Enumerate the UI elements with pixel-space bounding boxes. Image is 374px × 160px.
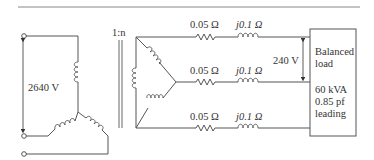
transformer-ratio-label: 1:n — [112, 27, 126, 38]
secondary-coil-left — [132, 68, 136, 88]
secondary-coil-top — [147, 47, 161, 64]
line-3-reactance-label: j0.1 Ω — [234, 111, 263, 122]
line-1 — [136, 33, 310, 40]
line-2-resistance-label: 0.05 Ω — [190, 65, 219, 76]
line-3-resistance-label: 0.05 Ω — [190, 111, 219, 122]
load-power-factor: 0.85 pf — [315, 96, 345, 107]
load-pf-type: leading — [315, 108, 347, 119]
line-3 — [136, 124, 310, 131]
resistor-2 — [196, 79, 215, 85]
line-2-reactance-label: j0.1 Ω — [234, 65, 263, 76]
inductor-2 — [238, 78, 258, 82]
terminal-b — [22, 134, 27, 139]
resistor-1 — [196, 34, 215, 40]
source-coil-top — [74, 62, 78, 82]
source-coil-right — [86, 116, 103, 130]
inductor-3 — [238, 124, 258, 128]
line-2 — [176, 78, 310, 85]
load-title-line1: Balanced — [315, 46, 355, 57]
source-wye — [22, 34, 108, 157]
inductor-1 — [238, 33, 258, 37]
load-title-line2: load — [315, 58, 334, 69]
line-1-reactance-label: j0.1 Ω — [234, 19, 263, 30]
line-1-resistance-label: 0.05 Ω — [190, 19, 219, 30]
circuit-diagram: 2640 V 1:n — [0, 0, 374, 160]
secondary-wye — [132, 37, 176, 128]
load-voltage-label: 240 V — [273, 55, 299, 66]
load-rating: 60 kVA — [315, 84, 348, 95]
terminal-c — [22, 152, 27, 157]
source-coil-left — [55, 119, 75, 129]
secondary-coil-bottom — [147, 95, 163, 98]
resistor-3 — [196, 125, 215, 131]
terminal-a — [22, 34, 27, 39]
source-voltage-label: 2640 V — [28, 82, 59, 93]
